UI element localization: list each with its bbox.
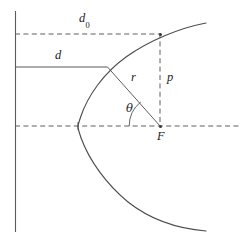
label-d: d (55, 49, 61, 62)
focus-point-dot (159, 125, 162, 128)
parabola-diagram: d0 d r p θ F (0, 0, 247, 249)
parabola-curve (78, 23, 206, 231)
label-r: r (131, 71, 136, 84)
label-d0-subscript: 0 (86, 20, 90, 30)
label-d0: d0 (79, 12, 90, 27)
label-d0-text: d (79, 11, 85, 25)
diagram-canvas (0, 0, 247, 249)
label-focus: F (157, 130, 165, 143)
label-p: p (167, 71, 173, 84)
label-theta: θ (126, 103, 133, 115)
curve-point-p-dot (159, 33, 162, 36)
